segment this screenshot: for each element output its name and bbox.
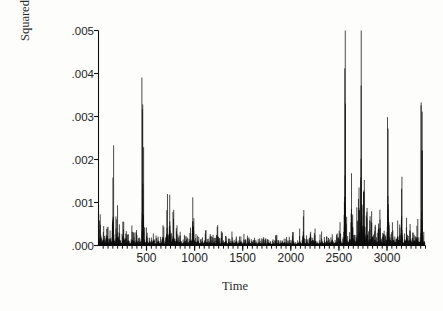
plot-area (0, 0, 443, 311)
squared-return-time-series-chart: Squared Return .005.004.003.002.001.000 … (0, 0, 443, 311)
squared-return-series (99, 31, 425, 246)
axis-lines (99, 31, 426, 246)
y-axis-major-ticks (94, 31, 99, 246)
